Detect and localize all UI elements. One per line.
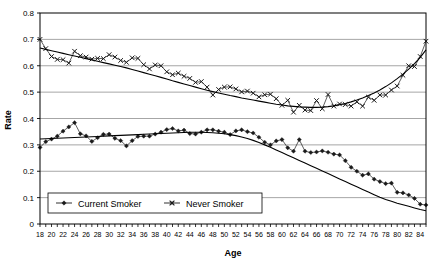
x-tick-label: 52 — [232, 231, 240, 238]
x-tick-label: 54 — [244, 231, 252, 238]
x-tick-label: 48 — [209, 231, 217, 238]
series-trend-line — [40, 48, 426, 107]
x-tick-label: 80 — [393, 231, 401, 238]
x-tick-label: 50 — [220, 231, 228, 238]
x-tick-label: 22 — [59, 231, 67, 238]
x-tick-label: 28 — [94, 231, 102, 238]
x-tick-label: 60 — [278, 231, 286, 238]
x-tick-label: 38 — [151, 231, 159, 238]
x-tick-label: 36 — [140, 231, 148, 238]
y-tick-label: 0.7 — [23, 35, 35, 44]
y-axis-title: Rate — [3, 110, 13, 130]
series-markers — [38, 37, 429, 114]
x-tick-label: 78 — [382, 231, 390, 238]
y-tick-label: 0.4 — [23, 115, 35, 124]
x-tick-label: 26 — [82, 231, 90, 238]
x-tick-label: 20 — [48, 231, 56, 238]
x-tick-label: 34 — [128, 231, 136, 238]
y-tick-label: 0.2 — [23, 167, 35, 176]
x-tick-label: 24 — [71, 231, 79, 238]
x-tick-label: 72 — [347, 231, 355, 238]
line-chart: 00.10.20.30.40.50.60.70.8 18202224262830… — [0, 0, 444, 267]
x-tick-label: 82 — [405, 231, 413, 238]
x-tick-label: 84 — [416, 231, 424, 238]
x-tick-label: 40 — [163, 231, 171, 238]
x-tick-label: 74 — [359, 231, 367, 238]
x-tick-label: 66 — [313, 231, 321, 238]
x-tick-label: 64 — [301, 231, 309, 238]
x-tick-label: 58 — [267, 231, 275, 238]
x-axis-title: Age — [224, 248, 241, 258]
y-axis-tick-labels: 00.10.20.30.40.50.60.70.8 — [23, 9, 35, 229]
data-series-group — [38, 37, 429, 211]
x-tick-label: 42 — [174, 231, 182, 238]
x-tick-label: 56 — [255, 231, 263, 238]
x-tick-label: 76 — [370, 231, 378, 238]
y-tick-label: 0.1 — [23, 194, 35, 203]
x-tick-label: 68 — [324, 231, 332, 238]
x-tick-label: 32 — [117, 231, 125, 238]
series-polyline — [40, 39, 426, 112]
x-tick-label: 30 — [105, 231, 113, 238]
chart-container: 00.10.20.30.40.50.60.70.8 18202224262830… — [0, 0, 444, 267]
y-tick-label: 0.3 — [23, 141, 35, 150]
chart-legend: Current SmokerNever Smoker — [48, 193, 262, 213]
series-never-smoker — [38, 37, 429, 114]
y-tick-label: 0.8 — [23, 9, 35, 18]
y-tick-label: 0 — [30, 220, 35, 229]
x-tick-label: 46 — [197, 231, 205, 238]
x-tick-label: 70 — [336, 231, 344, 238]
x-tick-label: 62 — [290, 231, 298, 238]
x-tick-label: 44 — [186, 231, 194, 238]
legend-label: Never Smoker — [186, 199, 244, 209]
x-axis-tick-labels: 1820222426283032343638404244464850525456… — [36, 231, 424, 238]
y-tick-label: 0.6 — [23, 62, 35, 71]
x-tick-label: 18 — [36, 231, 44, 238]
legend-label: Current Smoker — [78, 199, 142, 209]
y-tick-label: 0.5 — [23, 88, 35, 97]
